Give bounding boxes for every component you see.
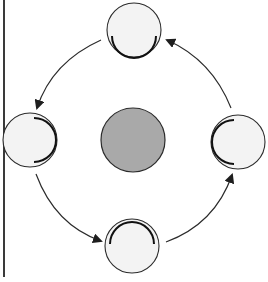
node-top xyxy=(107,3,161,58)
arrow-left-to-bottom xyxy=(36,174,101,241)
diagram-canvas xyxy=(0,0,268,282)
arrow-right-to-top xyxy=(167,40,231,108)
center-body xyxy=(101,108,165,172)
node-left xyxy=(3,113,57,167)
arrow-top-to-left xyxy=(37,40,101,108)
arrow-bottom-to-right xyxy=(166,175,232,242)
cycle-diagram xyxy=(0,0,268,282)
node-bottom xyxy=(105,219,159,273)
node-right xyxy=(211,115,265,169)
